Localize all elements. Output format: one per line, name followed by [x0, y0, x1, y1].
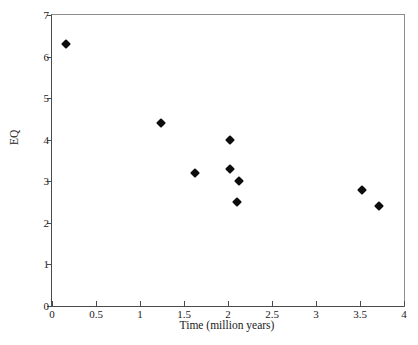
- data-point: [234, 176, 244, 186]
- data-point: [61, 39, 71, 49]
- x-axis-label: Time (million years): [51, 320, 403, 332]
- x-tick-label: 1: [137, 309, 143, 320]
- data-point: [232, 197, 242, 207]
- data-points-layer: [52, 15, 404, 306]
- y-tick-label: 6: [44, 51, 50, 62]
- x-tick-mark: [272, 301, 273, 306]
- data-point: [225, 164, 235, 174]
- x-tick-label: 3.5: [353, 309, 367, 320]
- data-point: [156, 118, 166, 128]
- y-tick-label: 1: [44, 259, 50, 270]
- y-tick-label: 4: [44, 134, 50, 145]
- data-point: [225, 135, 235, 145]
- data-point: [190, 168, 200, 178]
- y-tick-label: 2: [44, 217, 50, 228]
- x-tick-mark: [140, 301, 141, 306]
- y-tick-label: 5: [44, 93, 50, 104]
- x-tick-label: 0: [49, 309, 55, 320]
- y-tick-label: 3: [44, 176, 50, 187]
- x-tick-label: 4: [401, 309, 407, 320]
- data-point: [357, 185, 367, 195]
- x-tick-mark: [316, 301, 317, 306]
- x-tick-mark: [404, 301, 405, 306]
- plot-area: 01234567 00.511.522.533.54: [51, 14, 405, 307]
- scatter-chart-figure: 01234567 00.511.522.533.54 Time (million…: [0, 0, 418, 345]
- x-tick-mark: [52, 301, 53, 306]
- x-tick-label: 0.5: [89, 309, 103, 320]
- x-tick-mark: [228, 301, 229, 306]
- y-axis-label: EQ: [9, 130, 21, 145]
- y-tick-label: 0: [44, 301, 50, 312]
- x-tick-label: 3: [313, 309, 319, 320]
- x-tick-mark: [184, 301, 185, 306]
- data-point: [374, 201, 384, 211]
- x-tick-mark: [96, 301, 97, 306]
- x-tick-mark: [360, 301, 361, 306]
- y-tick-label: 7: [44, 10, 50, 21]
